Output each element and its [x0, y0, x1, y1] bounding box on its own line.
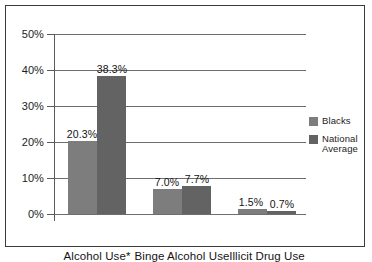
legend-label-national-average-line2: Average: [322, 144, 358, 155]
legend-label-blacks: Blacks: [322, 116, 351, 127]
y-tick-40: [47, 70, 54, 71]
data-label-national-average-binge-alcohol-use: 7.7%: [185, 173, 209, 185]
y-axis-label-30: 30%: [22, 100, 44, 112]
y-tick-10: [47, 178, 54, 179]
data-label-national-average-alcohol-use: 38.3%: [97, 63, 127, 75]
legend-item-national-average: National Average: [309, 134, 371, 155]
legend-swatch-national-average: [309, 135, 318, 144]
x-axis-label-binge-alcohol-use: Binge Alcohol Use: [134, 250, 229, 262]
x-axis-label-alcohol-use: Alcohol Use*: [63, 250, 130, 262]
plot-area: 50% 40% 30% 20% 10% 0% 20.3% 38.3% 7.0% …: [54, 34, 306, 214]
gridline-50: [54, 34, 306, 35]
y-axis-label-40: 40%: [22, 64, 44, 76]
data-label-blacks-alcohol-use: 20.3%: [67, 128, 97, 140]
data-label-blacks-binge-alcohol-use: 7.0%: [155, 176, 179, 188]
y-tick-30: [47, 106, 54, 107]
bar-blacks-illicit-drug-use: [238, 209, 267, 214]
gridline-30: [54, 106, 306, 107]
y-tick-20: [47, 142, 54, 143]
bar-national-average-alcohol-use: [97, 76, 126, 214]
legend-label-blacks-line1: Blacks: [322, 116, 351, 127]
bar-blacks-alcohol-use: [68, 141, 97, 214]
legend-label-national-average: National Average: [322, 134, 358, 155]
y-axis-line: [54, 34, 55, 214]
y-axis-label-20: 20%: [22, 136, 44, 148]
data-label-national-average-illicit-drug-use: 0.7%: [270, 198, 294, 210]
y-tick-50: [47, 34, 54, 35]
y-axis-extension: [54, 214, 55, 221]
chart-legend: Blacks National Average: [309, 116, 371, 162]
chart-frame: 50% 40% 30% 20% 10% 0% 20.3% 38.3% 7.0% …: [5, 5, 365, 247]
y-axis-label-50: 50%: [22, 28, 44, 40]
bar-blacks-binge-alcohol-use: [153, 189, 182, 214]
data-label-blacks-illicit-drug-use: 1.5%: [239, 196, 263, 208]
legend-swatch-blacks: [309, 117, 318, 126]
axis-baseline: [54, 214, 306, 215]
bar-national-average-illicit-drug-use: [267, 211, 296, 214]
y-axis-label-10: 10%: [22, 172, 44, 184]
y-axis-label-0: 0%: [28, 208, 44, 220]
x-axis-label-illicit-drug-use: Illicit Drug Use: [229, 250, 305, 262]
bar-national-average-binge-alcohol-use: [182, 186, 211, 214]
gridline-40: [54, 70, 306, 71]
y-tick-0: [47, 214, 54, 215]
legend-item-blacks: Blacks: [309, 116, 371, 127]
